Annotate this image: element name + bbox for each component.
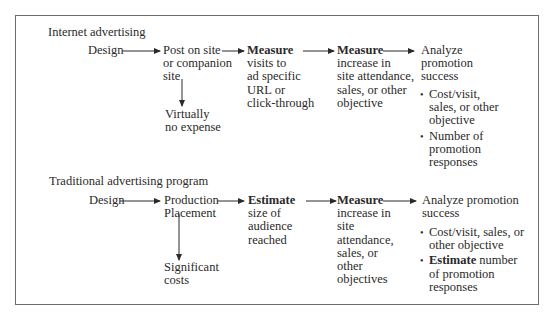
- bullet-line: other objective: [429, 239, 524, 252]
- bullet-line: of promotion: [429, 268, 524, 281]
- step-post-on-site: Post on site or companion site: [163, 44, 232, 84]
- bullet-item: Cost/visit, sales, or other objective: [420, 88, 499, 128]
- bullet-line: responses: [429, 281, 524, 294]
- bullet-line: responses: [429, 156, 499, 169]
- step-measure-visits: Measure visits to ad specific URL or cli…: [247, 44, 314, 110]
- step-measure-increase-traditional: Measure increase in site attendance, sal…: [337, 194, 394, 286]
- bullet-text: number: [476, 253, 517, 267]
- step-line: URL or: [247, 84, 314, 97]
- step-line: success: [421, 70, 473, 83]
- section-title-internet: Internet advertising: [48, 25, 146, 39]
- bullet-line: Estimate number: [429, 254, 524, 267]
- step-production-placement: Production Placement: [164, 194, 219, 220]
- bullet-item: Cost/visit, sales, or other objective: [420, 226, 524, 252]
- step-analyze-promotion-traditional: Analyze promotion success: [422, 194, 519, 220]
- step-line: click-through: [247, 97, 314, 110]
- step-measure-increase: Measure increase in site attendance, sal…: [337, 44, 414, 110]
- analyze-bullets-internet: Cost/visit, sales, or other objective Nu…: [420, 88, 499, 171]
- step-line: objectives: [337, 273, 394, 286]
- bullet-keyword: Estimate: [429, 253, 476, 267]
- step-line: site: [337, 220, 394, 233]
- step-line: site: [163, 70, 232, 83]
- bullet-line: objective: [429, 114, 499, 127]
- branch-line: no expense: [165, 121, 221, 134]
- branch-significant-costs: Significant costs: [164, 261, 219, 287]
- step-line: success: [422, 207, 519, 220]
- branch-virtually-no-expense: Virtually no expense: [165, 108, 221, 134]
- branch-line: costs: [164, 274, 219, 287]
- step-line: Placement: [164, 207, 219, 220]
- step-line: ad specific: [247, 70, 314, 83]
- step-line: audience: [248, 220, 295, 233]
- step-design-traditional: Design: [89, 194, 124, 207]
- step-analyze-promotion: Analyze promotion success: [421, 44, 473, 84]
- bullet-item: Number of promotion responses: [420, 130, 499, 170]
- step-line: objective: [337, 97, 414, 110]
- step-estimate-audience: Estimate size of audience reached: [248, 194, 295, 247]
- step-line: Design: [89, 194, 124, 207]
- step-line: site attendance,: [337, 70, 414, 83]
- step-line: attendance,: [337, 234, 394, 247]
- step-line: reached: [248, 234, 295, 247]
- step-line: sales, or other: [337, 84, 414, 97]
- analyze-bullets-traditional: Cost/visit, sales, or other objective Es…: [420, 226, 524, 296]
- step-line: Design: [88, 44, 123, 57]
- bullet-item: Estimate number of promotion responses: [420, 254, 524, 294]
- bullet-line: Number of: [429, 130, 499, 143]
- section-title-traditional: Traditional advertising program: [49, 174, 208, 188]
- step-design: Design: [88, 44, 123, 57]
